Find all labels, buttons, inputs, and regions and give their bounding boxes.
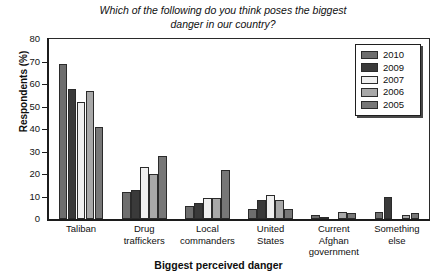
chart-title-line2: danger in our country? bbox=[58, 17, 388, 31]
bar bbox=[86, 91, 95, 219]
y-tick-label: 70 bbox=[0, 57, 40, 66]
y-tick-label: 0 bbox=[0, 214, 40, 223]
bar bbox=[203, 198, 212, 219]
y-tick-mark bbox=[42, 129, 48, 130]
y-tick-label: 10 bbox=[0, 192, 40, 201]
bar bbox=[158, 156, 167, 219]
legend-label: 2007 bbox=[383, 75, 404, 85]
bar-chart: Which of the following do you think pose… bbox=[0, 0, 437, 276]
bar bbox=[384, 197, 393, 220]
legend-label: 2006 bbox=[383, 87, 404, 97]
bar bbox=[347, 213, 356, 219]
bar bbox=[140, 167, 149, 219]
legend-label: 2005 bbox=[383, 100, 404, 110]
legend-item[interactable]: 2009 bbox=[361, 61, 416, 73]
legend-item[interactable]: 2005 bbox=[361, 99, 416, 111]
bar bbox=[149, 174, 158, 219]
chart-title-line1: Which of the following do you think pose… bbox=[58, 3, 388, 17]
bar bbox=[284, 209, 293, 219]
y-tick-label: 20 bbox=[0, 169, 40, 178]
y-tick-label: 50 bbox=[0, 102, 40, 111]
y-tick-mark bbox=[42, 197, 48, 198]
bar bbox=[95, 127, 104, 219]
y-tick-mark bbox=[42, 174, 48, 175]
bar bbox=[311, 215, 320, 220]
bar bbox=[266, 195, 275, 219]
x-tick-label-line: Something bbox=[356, 223, 437, 235]
bar-group bbox=[176, 39, 239, 219]
x-tick-label: Somethingelse bbox=[356, 223, 437, 246]
y-tick-label: 60 bbox=[0, 79, 40, 88]
bar bbox=[68, 89, 77, 220]
x-axis-label: Biggest perceived danger bbox=[0, 259, 437, 271]
legend-swatch bbox=[361, 63, 378, 72]
y-tick-label: 80 bbox=[0, 34, 40, 43]
legend-item[interactable]: 2010 bbox=[361, 49, 416, 61]
bar-group bbox=[113, 39, 176, 219]
x-tick-label-line: government bbox=[293, 246, 374, 258]
bar bbox=[248, 209, 257, 219]
legend-swatch bbox=[361, 101, 378, 110]
bar bbox=[59, 64, 68, 219]
legend-swatch bbox=[361, 88, 378, 97]
bar bbox=[221, 170, 230, 220]
bar bbox=[338, 212, 347, 219]
bar bbox=[131, 190, 140, 219]
bar bbox=[257, 200, 266, 219]
legend-swatch bbox=[361, 51, 378, 60]
bar bbox=[212, 198, 221, 219]
y-tick-mark bbox=[42, 62, 48, 63]
bar bbox=[185, 206, 194, 220]
x-tick-label-line: else bbox=[356, 235, 437, 247]
y-tick-label: 30 bbox=[0, 147, 40, 156]
legend: 20102009200720062005 bbox=[355, 44, 421, 116]
bar bbox=[320, 217, 329, 219]
bar-group bbox=[50, 39, 113, 219]
y-tick-mark bbox=[42, 84, 48, 85]
y-tick-label: 40 bbox=[0, 124, 40, 133]
legend-swatch bbox=[361, 76, 378, 85]
legend-item[interactable]: 2006 bbox=[361, 86, 416, 98]
bar bbox=[402, 215, 411, 220]
bar bbox=[194, 203, 203, 219]
bar bbox=[375, 212, 384, 219]
legend-item[interactable]: 2007 bbox=[361, 74, 416, 86]
legend-label: 2010 bbox=[383, 50, 404, 60]
legend-label: 2009 bbox=[383, 63, 404, 73]
y-tick-mark bbox=[42, 107, 48, 108]
x-axis-line bbox=[47, 219, 430, 221]
bar bbox=[411, 213, 420, 219]
bar bbox=[77, 102, 86, 219]
chart-title: Which of the following do you think pose… bbox=[58, 3, 388, 31]
bar-group bbox=[239, 39, 302, 219]
bar bbox=[122, 192, 131, 219]
bar bbox=[275, 200, 284, 219]
y-tick-mark bbox=[42, 152, 48, 153]
